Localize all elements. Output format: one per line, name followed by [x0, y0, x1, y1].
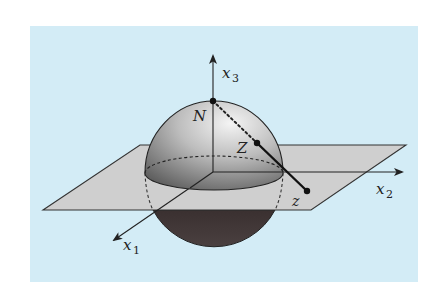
label-Z: Z [236, 139, 248, 157]
svg-text:x: x [376, 180, 385, 198]
sphere-lower-hemisphere [153, 210, 275, 247]
label-x2: x 2 [376, 180, 393, 201]
label-x1: x 1 [123, 236, 140, 257]
point-z [304, 188, 310, 194]
stereographic-projection-diagram: N Z z x 3 x 2 x 1 [0, 0, 444, 294]
svg-text:1: 1 [133, 244, 140, 257]
svg-text:x: x [222, 64, 231, 82]
label-z: z [291, 193, 300, 209]
label-x3: x 3 [222, 64, 239, 85]
svg-text:3: 3 [232, 72, 239, 85]
sphere-upper-hemisphere [145, 101, 283, 190]
svg-text:x: x [123, 236, 132, 254]
point-Z [254, 140, 260, 146]
point-N [210, 98, 216, 104]
svg-text:2: 2 [386, 188, 393, 201]
label-N: N [192, 107, 207, 125]
